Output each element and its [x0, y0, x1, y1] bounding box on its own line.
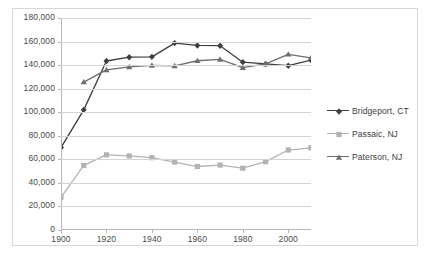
y-tickmark: [58, 18, 61, 19]
y-tick-label: 80,000: [28, 130, 55, 140]
data-point-marker: [104, 152, 109, 157]
x-tick-label: 1960: [188, 234, 207, 244]
series-line: [61, 148, 311, 197]
legend-label: Bridgeport, CT: [352, 106, 409, 116]
y-tickmark: [58, 159, 61, 160]
gridline: [61, 112, 311, 113]
y-tickmark: [58, 65, 61, 66]
legend-swatch-icon: [327, 106, 349, 116]
y-tick-label: 40,000: [28, 177, 55, 187]
y-axis-labels: 180,000160,000140,000120,000100,00080,00…: [0, 18, 55, 230]
gridline: [61, 65, 311, 66]
y-tickmark: [58, 183, 61, 184]
series-line: [61, 43, 311, 147]
legend-swatch-icon: [327, 152, 349, 162]
legend-item-passaic-nj[interactable]: Passaic, NJ: [327, 122, 427, 145]
x-tickmark: [152, 230, 153, 233]
y-tickmark: [58, 206, 61, 207]
y-tickmark: [58, 42, 61, 43]
data-point-marker: [149, 54, 155, 60]
data-point-marker: [127, 153, 132, 158]
gridline: [61, 89, 311, 90]
y-tickmark: [58, 89, 61, 90]
y-axis-line: [61, 18, 62, 230]
x-tick-label: 1900: [51, 234, 70, 244]
legend-marker-icon: [335, 108, 343, 116]
legend-swatch-icon: [327, 129, 349, 139]
data-point-marker: [336, 131, 341, 136]
x-tickmark: [106, 230, 107, 233]
y-tick-label: 140,000: [24, 59, 55, 69]
x-tickmark: [243, 230, 244, 233]
gridline: [61, 42, 311, 43]
legend-item-bridgeport-ct[interactable]: Bridgeport, CT: [327, 99, 427, 122]
data-point-marker: [286, 147, 291, 152]
y-tick-label: 120,000: [24, 83, 55, 93]
legend-label: Paterson, NJ: [352, 152, 402, 162]
chart-legend: Bridgeport, CTPassaic, NJPaterson, NJ: [327, 99, 427, 168]
gridline: [61, 159, 311, 160]
y-tick-label: 160,000: [24, 36, 55, 46]
data-point-marker: [81, 79, 87, 84]
series-bridgeport-ct: [61, 40, 311, 151]
gridline: [61, 183, 311, 184]
gridline: [61, 136, 311, 137]
x-axis-line: [61, 229, 311, 230]
plot-area: [61, 18, 311, 230]
data-point-marker: [336, 108, 342, 114]
line-chart: 180,000160,000140,000120,000100,00080,00…: [0, 0, 431, 263]
y-tickmark: [58, 112, 61, 113]
y-tick-label: 20,000: [28, 200, 55, 210]
series-paterson-nj: [81, 51, 311, 84]
x-tick-label: 1940: [142, 234, 161, 244]
data-point-marker: [81, 163, 86, 168]
y-tick-label: 100,000: [24, 106, 55, 116]
data-point-marker: [285, 51, 291, 56]
legend-item-paterson-nj[interactable]: Paterson, NJ: [327, 145, 427, 168]
y-tick-label: 60,000: [28, 153, 55, 163]
data-point-marker: [194, 42, 200, 48]
data-point-marker: [103, 58, 109, 64]
data-point-marker: [240, 166, 245, 171]
legend-marker-icon: [335, 131, 343, 139]
series-layer: [61, 18, 311, 230]
x-tick-label: 2000: [279, 234, 298, 244]
y-tick-label: 0: [50, 224, 55, 234]
data-point-marker: [195, 164, 200, 169]
x-tickmark: [61, 230, 62, 233]
legend-label: Passaic, NJ: [352, 129, 398, 139]
series-passaic-nj: [61, 145, 311, 200]
x-tickmark: [288, 230, 289, 233]
data-point-marker: [308, 145, 311, 150]
y-tick-label: 180,000: [24, 12, 55, 22]
gridline: [61, 206, 311, 207]
x-axis-labels: 190019201940196019802000: [61, 234, 311, 248]
x-tick-label: 1980: [233, 234, 252, 244]
data-point-marker: [336, 154, 342, 159]
x-tick-label: 1920: [97, 234, 116, 244]
chart-figure: 180,000160,000140,000120,000100,00080,00…: [0, 0, 431, 263]
data-point-marker: [126, 54, 132, 60]
gridline: [61, 18, 311, 19]
y-tickmark: [58, 136, 61, 137]
legend-marker-icon: [335, 154, 343, 162]
x-tickmark: [197, 230, 198, 233]
data-point-marker: [217, 163, 222, 168]
